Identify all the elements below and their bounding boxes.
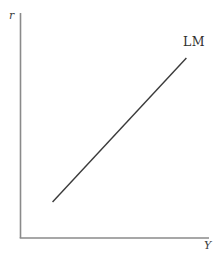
y-axis-label: r: [9, 10, 14, 21]
x-axis-label: Y: [204, 240, 211, 251]
curve-label: LM: [183, 36, 205, 49]
lm-curve-figure: r Y LM: [0, 0, 222, 262]
lm-curve-line: [53, 58, 187, 202]
